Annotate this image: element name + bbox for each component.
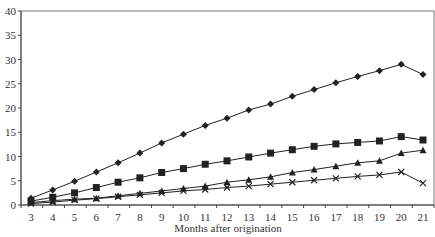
x-tick-label: 3 bbox=[28, 211, 34, 223]
x-marker bbox=[420, 180, 426, 186]
y-tick-label: 20 bbox=[5, 102, 17, 114]
square-marker bbox=[376, 137, 383, 144]
y-tick-label: 25 bbox=[5, 78, 17, 90]
square-marker bbox=[420, 137, 427, 144]
x-tick-label: 9 bbox=[159, 211, 165, 223]
diamond-marker bbox=[354, 73, 361, 80]
x-tick-label: 20 bbox=[396, 211, 408, 223]
square-marker bbox=[93, 184, 100, 191]
series-group bbox=[28, 61, 427, 207]
series-square-line bbox=[31, 137, 423, 202]
y-tick-label: 15 bbox=[5, 126, 17, 138]
y-tick-label: 10 bbox=[5, 151, 17, 163]
square-marker bbox=[267, 150, 274, 157]
diamond-marker bbox=[136, 150, 143, 157]
x-tick-label: 17 bbox=[330, 211, 342, 223]
x-tick-label: 4 bbox=[50, 211, 56, 223]
diamond-marker bbox=[49, 186, 56, 193]
square-marker bbox=[224, 157, 231, 164]
diamond-marker bbox=[115, 159, 122, 166]
x-tick-label: 7 bbox=[115, 211, 121, 223]
square-marker bbox=[158, 169, 165, 176]
square-marker bbox=[398, 133, 405, 140]
x-tick-label: 21 bbox=[418, 211, 429, 223]
diamond-marker bbox=[398, 61, 405, 68]
diamond-marker bbox=[93, 169, 100, 176]
y-tick-label: 0 bbox=[11, 199, 17, 211]
diamond-marker bbox=[180, 131, 187, 138]
square-marker bbox=[180, 165, 187, 172]
diamond-marker bbox=[224, 115, 231, 122]
square-marker bbox=[332, 140, 339, 147]
y-tick-label: 30 bbox=[5, 54, 17, 66]
y-tick-label: 40 bbox=[5, 5, 17, 17]
diamond-marker bbox=[158, 139, 165, 146]
square-marker bbox=[311, 143, 318, 150]
diamond-marker bbox=[202, 122, 209, 129]
series-square bbox=[28, 133, 427, 205]
series-diamond-line bbox=[31, 64, 423, 198]
y-tick-label: 35 bbox=[5, 29, 17, 41]
square-marker bbox=[115, 179, 122, 186]
axes: 0510152025303540345678910111213141516171… bbox=[5, 5, 434, 223]
diamond-marker bbox=[311, 86, 318, 93]
y-tick-label: 5 bbox=[11, 175, 17, 187]
square-marker bbox=[202, 161, 209, 168]
diamond-marker bbox=[332, 79, 339, 86]
diamond-marker bbox=[245, 106, 252, 113]
line-chart: 0510152025303540345678910111213141516171… bbox=[0, 0, 435, 237]
x-tick-label: 6 bbox=[94, 211, 100, 223]
diamond-marker bbox=[420, 71, 427, 78]
x-tick-label: 16 bbox=[309, 211, 321, 223]
square-marker bbox=[354, 139, 361, 146]
triangle-marker bbox=[420, 147, 427, 154]
x-tick-label: 5 bbox=[72, 211, 78, 223]
x-tick-label: 15 bbox=[287, 211, 299, 223]
x-axis-title: Months after origination bbox=[174, 222, 282, 234]
diamond-marker bbox=[267, 101, 274, 108]
x-tick-label: 8 bbox=[137, 211, 143, 223]
series-x bbox=[28, 169, 426, 207]
diamond-marker bbox=[376, 67, 383, 74]
square-marker bbox=[71, 189, 78, 196]
x-tick-label: 18 bbox=[352, 211, 364, 223]
square-marker bbox=[245, 153, 252, 160]
diamond-marker bbox=[71, 178, 78, 185]
diamond-marker bbox=[289, 93, 296, 100]
square-marker bbox=[136, 174, 143, 181]
square-marker bbox=[289, 146, 296, 153]
x-tick-label: 19 bbox=[374, 211, 386, 223]
